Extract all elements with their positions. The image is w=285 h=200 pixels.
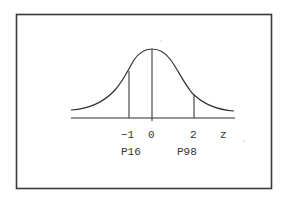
- tick-label-minus1: −1: [121, 129, 135, 141]
- tick-label-2: 2: [190, 129, 197, 141]
- percentile-label-p98: P98: [177, 146, 197, 158]
- axis-label-z: z: [220, 129, 227, 141]
- tick-label-0: 0: [148, 129, 155, 141]
- normal-curve-diagram: −1 0 2 z P16 P98: [0, 0, 285, 200]
- scan-speck: [243, 140, 244, 141]
- percentile-label-p16: P16: [121, 146, 141, 158]
- scan-speck: [160, 40, 161, 41]
- diagram-frame: [17, 15, 272, 189]
